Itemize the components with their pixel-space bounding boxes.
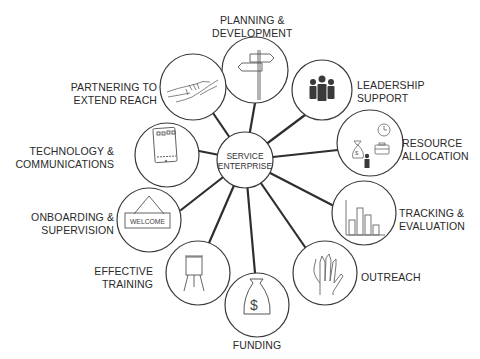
label-onboarding: ONBOARDING & SUPERVISION [31, 211, 114, 237]
label-technology-line2: COMMUNICATIONS [15, 158, 114, 171]
label-leadership: LEADERSHIP SUPPORT [357, 79, 425, 105]
center-label: SERVICE ENTERPRISE [215, 151, 275, 171]
svg-text:$: $ [250, 297, 258, 313]
label-onboarding-line1: ONBOARDING & [31, 211, 114, 224]
label-outreach: OUTREACH [361, 271, 421, 284]
people-group-icon [310, 76, 335, 102]
center-label-line1: SERVICE [215, 151, 275, 161]
label-planning-line2: DEVELOPMENT [212, 27, 292, 40]
label-outreach-line1: OUTREACH [361, 271, 421, 284]
label-partnering: PARTNERING TO EXTEND REACH [71, 81, 157, 107]
label-partnering-line2: EXTEND REACH [71, 94, 157, 107]
node-circle-partnering [160, 54, 226, 120]
label-leadership-line2: SUPPORT [357, 92, 425, 105]
label-planning-line1: PLANNING & [212, 14, 292, 27]
label-training: EFFECTIVE TRAINING [94, 265, 153, 291]
label-resource: RESOURCE ALLOCATION [402, 137, 469, 163]
label-planning: PLANNING & DEVELOPMENT [212, 14, 292, 40]
label-tracking-line1: TRACKING & [399, 207, 465, 220]
label-onboarding-line2: SUPERVISION [31, 224, 114, 237]
label-leadership-line1: LEADERSHIP [357, 79, 425, 92]
node-circle-training [166, 241, 230, 305]
label-training-line2: TRAINING [94, 278, 153, 291]
label-resource-line2: ALLOCATION [402, 150, 469, 163]
label-technology: TECHNOLOGY & COMMUNICATIONS [15, 145, 114, 171]
node-circle-resource [337, 110, 403, 176]
svg-text:WELCOME: WELCOME [130, 218, 166, 225]
label-funding: FUNDING [227, 339, 287, 352]
person-icon [365, 154, 370, 168]
label-funding-line1: FUNDING [227, 339, 287, 352]
center-label-line2: ENTERPRISE [215, 161, 275, 171]
label-tracking-line2: EVALUATION [399, 220, 465, 233]
label-resource-line1: RESOURCE [402, 137, 469, 150]
label-training-line1: EFFECTIVE [94, 265, 153, 278]
label-technology-line1: TECHNOLOGY & [15, 145, 114, 158]
label-tracking: TRACKING & EVALUATION [399, 207, 465, 233]
hub-diagram: $ $ WELCOME [0, 0, 480, 359]
label-partnering-line1: PARTNERING TO [71, 81, 157, 94]
node-circle-planning [222, 37, 288, 103]
